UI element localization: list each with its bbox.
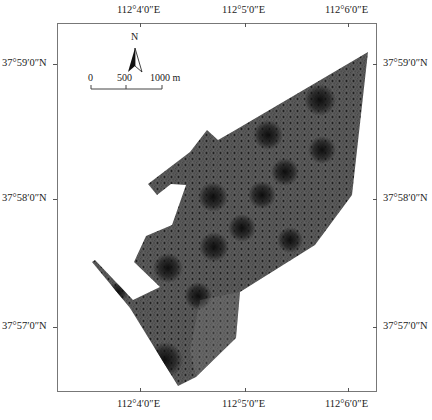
scale-bar — [91, 85, 162, 89]
north-arrow-icon — [128, 48, 142, 72]
map-canvas — [0, 0, 432, 420]
scale-label-1000: 1000 m — [150, 72, 180, 83]
scale-label-0: 0 — [88, 72, 93, 83]
scale-label-500: 500 — [117, 72, 132, 83]
mesh-polygon — [80, 40, 380, 400]
north-arrow-label: N — [131, 31, 138, 42]
